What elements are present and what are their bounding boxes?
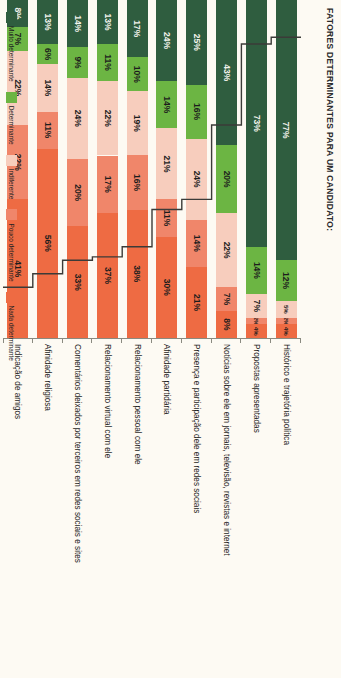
segment-value: 11% xyxy=(103,54,112,71)
legend-label: Indiferente xyxy=(8,169,15,200)
bar-segment: 21% xyxy=(186,267,207,338)
segment-value: 6% xyxy=(43,48,52,60)
segment-value: 13% xyxy=(43,13,52,30)
legend-item: Nada determinante xyxy=(6,292,17,361)
legend-item: Muito determinante xyxy=(6,12,17,82)
bar-segment: 20% xyxy=(216,145,237,213)
bar-segment: 14% xyxy=(67,0,88,47)
bar-segment: 30% xyxy=(156,237,177,338)
category-labels: Histórico e trajetória políticaPropostas… xyxy=(3,344,301,674)
bar-segment: 6% xyxy=(37,44,58,64)
bar-segment: 77% xyxy=(276,0,297,260)
bar-segment: 22% xyxy=(97,81,118,155)
category-label: Afinidade partidária xyxy=(152,344,182,415)
bar-segment: 24% xyxy=(156,0,177,81)
axis-tick xyxy=(121,338,122,343)
bar-segment: 4% xyxy=(246,324,267,338)
axis-tick xyxy=(151,338,152,343)
category-axis-line xyxy=(3,338,301,339)
bar-segment: 14% xyxy=(156,81,177,128)
bar-segment: 11% xyxy=(156,199,177,236)
bar-segment: 25% xyxy=(186,0,207,85)
bar-row: 8%7%22%20%43% xyxy=(216,0,237,338)
plot-area: 4%2%5%12%77%4%2%7%14%73%8%7%22%20%43%21%… xyxy=(23,0,323,678)
axis-tick xyxy=(91,338,92,343)
bar-segment: 11% xyxy=(37,112,58,149)
legend-item: Determinante xyxy=(6,92,17,145)
bar-segment: 38% xyxy=(127,210,148,338)
bar-row: 4%2%7%14%73% xyxy=(246,0,267,338)
bar-segment: 14% xyxy=(37,64,58,111)
axis-tick xyxy=(270,338,271,343)
chart-title: FATORES DETERMINANTES PARA UM CANDIDATO: xyxy=(325,8,335,231)
segment-value: 13% xyxy=(103,13,112,30)
legend-swatch xyxy=(6,92,17,103)
chart-legend: Muito determinanteDeterminanteIndiferent… xyxy=(6,12,17,361)
bar-segment: 13% xyxy=(97,0,118,44)
segment-value: 22% xyxy=(222,242,231,259)
bar-segment: 16% xyxy=(127,155,148,209)
bar-group: 4%2%5%12%77%4%2%7%14%73%8%7%22%20%43%21%… xyxy=(3,0,301,338)
category-label: Histórico e trajetória política xyxy=(271,344,301,445)
segment-value: 37% xyxy=(103,267,112,284)
bar-segment: 12% xyxy=(276,260,297,301)
bar-segment: 24% xyxy=(67,78,88,159)
bar-segment: 73% xyxy=(246,0,267,247)
bar-segment: 2% xyxy=(246,318,267,325)
segment-value: 11% xyxy=(43,122,52,139)
bar-segment: 33% xyxy=(67,226,88,338)
bar-segment: 4% xyxy=(276,324,297,338)
legend-item: Pouco determinante xyxy=(6,209,17,281)
segment-value: 4% xyxy=(283,327,289,336)
segment-value: 14% xyxy=(163,96,172,113)
segment-value: 14% xyxy=(252,262,261,279)
bar-segment: 11% xyxy=(97,44,118,81)
segment-value: 7% xyxy=(222,293,231,305)
category-label: Relacionamento pessoal com ele xyxy=(122,344,152,465)
segment-value: 14% xyxy=(192,235,201,252)
category-label: Afinidade religiosa xyxy=(33,344,63,411)
bar-row: 21%14%24%16%25% xyxy=(186,0,207,338)
bar-row: 37%17%22%11%13% xyxy=(97,0,118,338)
legend-item: Indiferente xyxy=(6,155,17,200)
legend-swatch xyxy=(6,155,17,166)
bar-segment: 43% xyxy=(216,0,237,145)
bar-segment: 13% xyxy=(37,0,58,44)
segment-value: 73% xyxy=(252,115,261,132)
segment-value: 14% xyxy=(73,15,82,32)
axis-tick xyxy=(3,338,4,343)
category-label: Relacionamento virtual com ele xyxy=(92,344,122,458)
bar-row: 33%20%24%9%14% xyxy=(67,0,88,338)
legend-swatch xyxy=(6,209,17,220)
segment-value: 5% xyxy=(283,305,289,314)
bar-segment: 14% xyxy=(186,220,207,267)
bar-segment: 7% xyxy=(246,294,267,318)
bar-row: 38%16%19%10%17% xyxy=(127,0,148,338)
axis-tick xyxy=(300,338,301,343)
category-label: Presença e participação dele em redes so… xyxy=(182,344,212,513)
segment-value: 24% xyxy=(73,110,82,127)
axis-tick xyxy=(181,338,182,343)
segment-value: 14% xyxy=(43,79,52,96)
category-label: Comentários deixados por terceiros em re… xyxy=(63,344,93,563)
bar-segment: 56% xyxy=(37,149,58,338)
bar-segment: 37% xyxy=(97,213,118,338)
axis-tick xyxy=(240,338,241,343)
segment-value: 10% xyxy=(133,66,142,83)
segment-value: 16% xyxy=(192,103,201,120)
segment-value: 22% xyxy=(103,110,112,127)
bar-row: 4%2%5%12%77% xyxy=(276,0,297,338)
segment-value: 16% xyxy=(133,174,142,191)
segment-value: 38% xyxy=(133,265,142,282)
segment-value: 17% xyxy=(133,20,142,37)
bar-segment: 10% xyxy=(127,57,148,91)
legend-swatch xyxy=(6,12,17,23)
segment-value: 12% xyxy=(282,272,291,289)
segment-value: 11% xyxy=(163,210,172,227)
axis-tick xyxy=(211,338,212,343)
bar-segment: 24% xyxy=(186,139,207,220)
segment-value: 2% xyxy=(283,318,289,325)
axis-tick xyxy=(32,338,33,343)
segment-value: 4% xyxy=(253,327,259,336)
legend-label: Nada determinante xyxy=(8,306,15,361)
